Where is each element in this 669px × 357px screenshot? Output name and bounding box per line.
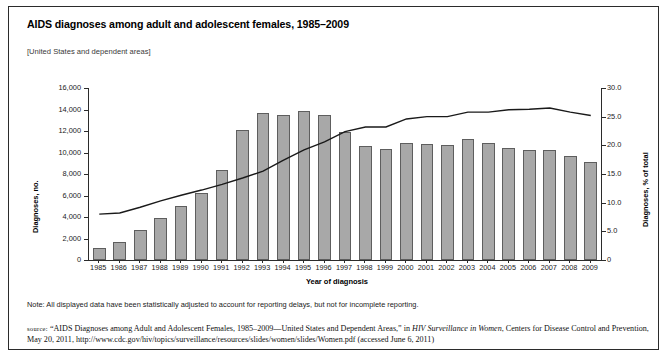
percent-trend-line: [99, 108, 591, 214]
y-tick-left: [84, 174, 88, 175]
y-tick-label-left: 10,000: [35, 148, 81, 157]
y-tick-right: [602, 260, 606, 261]
y-tick-label-left: 0: [35, 255, 81, 264]
y-tick-left: [84, 239, 88, 240]
y-tick-right: [602, 231, 606, 232]
y-tick-label-left: 4,000: [35, 212, 81, 221]
y-tick-left: [84, 110, 88, 111]
x-axis-title: Year of diagnosis: [27, 277, 647, 286]
source-line1-post: ,: [502, 324, 504, 333]
x-tick-label-2009: 2009: [575, 263, 605, 272]
figure-subtitle: [United States and dependent areas]: [27, 47, 151, 56]
figure-page: AIDS diagnoses among adult and adolescen…: [0, 0, 669, 357]
y-tick-label-left: 6,000: [35, 191, 81, 200]
x-axis: [88, 260, 602, 261]
y-tick-left: [84, 217, 88, 218]
y-tick-right: [602, 88, 606, 89]
figure-source: source: “AIDS Diagnoses among Adult and …: [27, 323, 655, 345]
percent-line-series: [89, 88, 601, 260]
y-axis-right-title: Diagnoses, % of total: [641, 152, 650, 227]
y-tick-left: [84, 153, 88, 154]
y-tick-label-left: 16,000: [35, 83, 81, 92]
y-tick-label-right: 15.0: [607, 169, 647, 178]
y-tick-label-left: 2,000: [35, 234, 81, 243]
source-line1-pre: “AIDS Diagnoses among Adult and Adolesce…: [50, 324, 412, 333]
y-tick-label-right: 25.0: [607, 112, 647, 121]
page-title: AIDS diagnoses among adult and adolescen…: [27, 18, 349, 30]
chart-area: Diagnoses, no. Diagnoses, % of total 02,…: [27, 81, 647, 267]
figure-frame: AIDS diagnoses among adult and adolescen…: [8, 6, 659, 350]
y-tick-label-left: 8,000: [35, 169, 81, 178]
x-axis-labels: 1985198619871988198919901991199219931994…: [88, 263, 602, 277]
y-axis-left-title: Diagnoses, no.: [31, 180, 40, 233]
y-tick-right: [602, 174, 606, 175]
y-tick-left: [84, 88, 88, 89]
source-label: source:: [27, 325, 48, 332]
source-line3: (accessed June 6, 2011): [358, 335, 435, 344]
plot-region: [89, 88, 601, 260]
source-publication: HIV Surveillance in Women: [412, 324, 502, 333]
y-tick-left: [84, 260, 88, 261]
y-tick-right: [602, 145, 606, 146]
y-tick-label-left: 14,000: [35, 105, 81, 114]
y-tick-label-right: 30.0: [607, 83, 647, 92]
y-tick-label-right: 5.0: [607, 226, 647, 235]
y-tick-label-right: 10.0: [607, 198, 647, 207]
y-tick-label-right: 20.0: [607, 140, 647, 149]
y-tick-label-right: 0: [607, 255, 647, 264]
y-tick-label-left: 12,000: [35, 126, 81, 135]
figure-note: Note: All displayed data have been stati…: [27, 300, 419, 309]
y-tick-left: [84, 196, 88, 197]
y-tick-right: [602, 203, 606, 204]
y-tick-right: [602, 117, 606, 118]
y-tick-left: [84, 131, 88, 132]
